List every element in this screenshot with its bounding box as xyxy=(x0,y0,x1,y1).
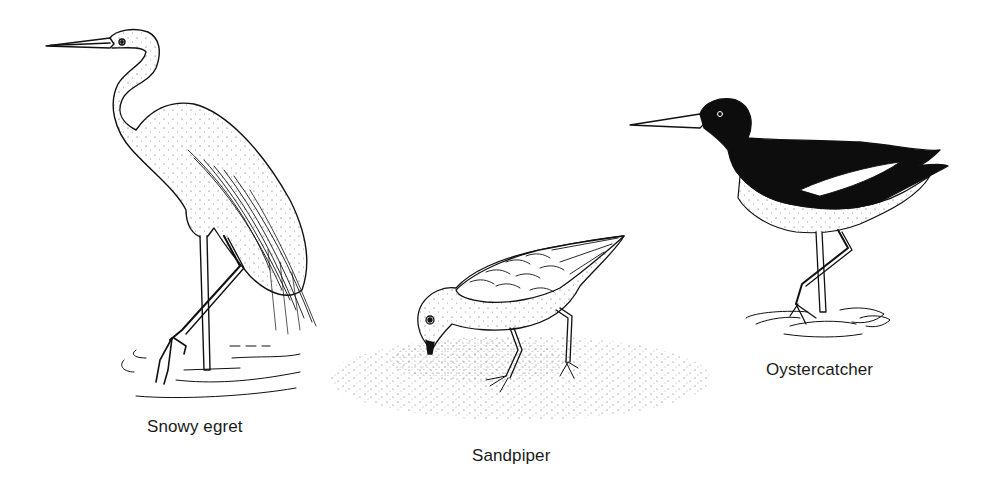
label-snowy-egret: Snowy egret xyxy=(147,417,243,437)
bird-illustration: Snowy egret Sandpiper Oystercatcher xyxy=(0,0,998,491)
label-oystercatcher: Oystercatcher xyxy=(766,360,873,380)
oystercatcher-figure xyxy=(630,99,948,337)
sandpiper-figure xyxy=(330,236,710,420)
egret-figure xyxy=(46,30,316,398)
label-sandpiper: Sandpiper xyxy=(472,446,550,466)
